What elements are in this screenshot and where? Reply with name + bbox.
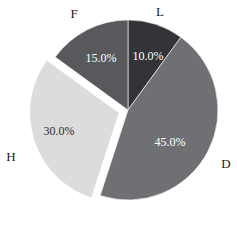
slice-category-label-l: L (156, 5, 164, 18)
slice-category-label-d: D (221, 157, 230, 170)
slice-percent-label-f: 15.0% (86, 51, 117, 65)
pie-chart-canvas: 10.0%45.0%30.0%15.0% (0, 0, 237, 228)
pie-chart: 10.0%45.0%30.0%15.0% LDHF (0, 0, 237, 228)
slice-category-label-f: F (70, 7, 77, 20)
slice-percent-label-d: 45.0% (155, 135, 186, 149)
slice-percent-label-h: 30.0% (44, 124, 75, 138)
slice-category-label-h: H (6, 150, 15, 163)
slice-percent-label-l: 10.0% (133, 49, 164, 63)
